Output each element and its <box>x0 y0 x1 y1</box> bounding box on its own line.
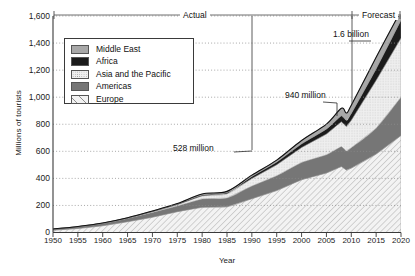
legend-label-asia-and-the-pacific: Asia and the Pacific <box>96 70 171 79</box>
period-bracket <box>54 11 401 19</box>
legend-item-americas: Americas <box>71 81 193 93</box>
legend-swatch-africa <box>71 57 89 66</box>
x-axis-ticks <box>53 233 401 238</box>
legend-swatch-americas <box>71 82 89 91</box>
legend-label-americas: Americas <box>96 82 131 91</box>
legend-label-europe: Europe <box>96 95 123 104</box>
legend-item-africa: Africa <box>71 56 193 68</box>
annotation-1-6-billion: 1.6 billion <box>333 29 369 39</box>
legend-item-middle-east: Middle East <box>71 43 193 55</box>
annotation-528-million: 528 million <box>173 143 214 153</box>
legend-item-asia-and-the-pacific: Asia and the Pacific <box>71 68 193 80</box>
legend-swatch-europe <box>71 95 89 104</box>
annotation-actual: Actual <box>180 10 210 20</box>
annotation-forecast: Forecast <box>359 10 398 20</box>
legend-swatch-asia-and-the-pacific <box>71 70 89 79</box>
legend-label-middle-east: Middle East <box>96 45 140 54</box>
annotation-940-million: 940 million <box>285 90 326 100</box>
legend-label-africa: Africa <box>96 57 118 66</box>
legend-item-europe: Europe <box>71 93 193 105</box>
legend-swatch-middle-east <box>71 45 89 54</box>
chart-legend: Middle East Africa Asia and the Pacific … <box>64 38 194 104</box>
